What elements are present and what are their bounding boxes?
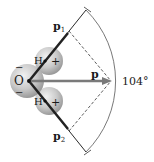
hydrogen-bottom-charge: + bbox=[51, 97, 60, 108]
hydrogen-bottom-label: H bbox=[34, 97, 43, 107]
angle-label: 104° bbox=[122, 76, 149, 87]
vector-p-label: p bbox=[91, 69, 99, 80]
oxygen-charge-bottom: − bbox=[15, 88, 23, 98]
oxygen-charge-top: − bbox=[15, 63, 23, 73]
vector-p1-label: p1 bbox=[53, 21, 65, 32]
vector-p2-label: p2 bbox=[53, 131, 65, 142]
hydrogen-top-label: H bbox=[34, 56, 43, 66]
water-dipole-diagram: O − − H + H + p1 p2 p 104° bbox=[0, 0, 154, 162]
vector-p-arrowhead bbox=[102, 77, 112, 85]
hydrogen-bottom-dot bbox=[43, 99, 46, 102]
oxygen-dot bbox=[27, 79, 31, 83]
hydrogen-top-dot bbox=[43, 59, 46, 62]
dashed-top bbox=[69, 31, 111, 81]
hydrogen-top-charge: + bbox=[51, 56, 60, 67]
oxygen-label: O bbox=[14, 75, 24, 87]
dashed-bottom bbox=[69, 81, 111, 131]
